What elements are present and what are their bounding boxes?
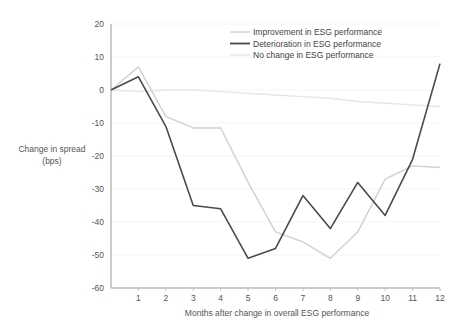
y-tick-label: 0 bbox=[99, 85, 104, 95]
y-tick-label: -20 bbox=[92, 151, 105, 161]
x-tick-label: 2 bbox=[163, 293, 168, 303]
data-series-group bbox=[111, 64, 440, 259]
esg-spread-chart: 20100-10-20-30-40-50-60 123456789101112 … bbox=[0, 0, 453, 327]
x-tick-label: 11 bbox=[408, 293, 417, 303]
chart-legend: Improvement in ESG performanceDeteriorat… bbox=[230, 27, 382, 60]
legend-label: No change in ESG performance bbox=[253, 50, 374, 60]
x-tick-label: 1 bbox=[136, 293, 141, 303]
x-tick-label: 4 bbox=[218, 293, 223, 303]
y-tick-label: -30 bbox=[92, 184, 105, 194]
y-tick-label: 10 bbox=[95, 52, 105, 62]
legend-label: Deterioration in ESG performance bbox=[253, 39, 381, 49]
y-axis-title-line2: (bps) bbox=[42, 156, 62, 166]
x-tick-label: 6 bbox=[273, 293, 278, 303]
x-tick-labels: 123456789101112 bbox=[136, 293, 445, 303]
x-tick-label: 10 bbox=[380, 293, 390, 303]
x-tick-label: 12 bbox=[435, 293, 445, 303]
y-tick-label: -40 bbox=[92, 217, 105, 227]
x-tick-label: 9 bbox=[355, 293, 360, 303]
series-line-3 bbox=[111, 90, 440, 107]
x-tick-label: 7 bbox=[301, 293, 306, 303]
chart-canvas: 20100-10-20-30-40-50-60 123456789101112 … bbox=[0, 0, 453, 327]
x-tick-label: 8 bbox=[328, 293, 333, 303]
series-line-2 bbox=[111, 64, 440, 259]
y-tick-labels: 20100-10-20-30-40-50-60 bbox=[92, 19, 105, 293]
legend-label: Improvement in ESG performance bbox=[253, 27, 382, 37]
x-tick-label: 3 bbox=[191, 293, 196, 303]
x-axis-title: Months after change in overall ESG perfo… bbox=[185, 308, 370, 318]
x-tick-label: 5 bbox=[246, 293, 251, 303]
y-axis-title-line1: Change in spread bbox=[18, 144, 85, 154]
y-tick-label: -10 bbox=[92, 118, 105, 128]
y-tick-label: 20 bbox=[95, 19, 105, 29]
y-tick-label: -50 bbox=[92, 250, 105, 260]
y-tick-label: -60 bbox=[92, 283, 105, 293]
